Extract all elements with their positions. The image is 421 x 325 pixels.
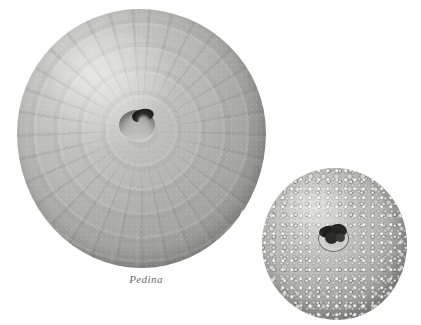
urchin-peristome-opening	[317, 223, 350, 252]
pedina-margin-notch	[238, 206, 264, 227]
figure-plate: Pedina	[0, 0, 421, 325]
specimen-small-urchin	[262, 168, 407, 320]
pedina-highlight	[52, 32, 181, 136]
specimen-caption-pedina: Pedina	[104, 273, 188, 285]
specimen-pedina	[17, 9, 266, 268]
peristome-rim	[318, 225, 349, 252]
